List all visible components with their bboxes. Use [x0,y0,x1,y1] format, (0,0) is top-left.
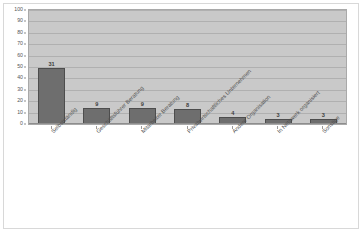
bar-value-label-5: 3 [277,112,280,118]
y-tick-label-20: 20 [17,99,23,104]
y-tick-mark-10 [24,112,26,113]
bar-value-label-0: 31 [48,61,54,67]
bar-0 [38,68,65,124]
y-tick-mark-50 [24,67,26,68]
y-tick-label-60: 60 [17,53,23,58]
y-tick-label-100: 100 [14,7,23,12]
bar-value-label-3: 8 [186,102,189,108]
y-tick-label-10: 10 [17,110,23,115]
y-tick-label-80: 80 [17,30,23,35]
y-axis-tick-labels: 0102030405060708090100 [0,9,26,125]
y-tick-label-70: 70 [17,42,23,47]
bar-value-label-6: 3 [322,112,325,118]
gridline-0 [29,124,346,125]
y-tick-label-40: 40 [17,76,23,81]
y-tick-label-90: 90 [17,19,23,24]
y-tick-mark-90 [24,21,26,22]
bar-chart-figure: 0102030405060708090100 31998433 Selbstst… [0,0,363,233]
bar-value-label-4: 4 [231,110,234,116]
y-tick-mark-60 [24,55,26,56]
y-tick-mark-40 [24,78,26,79]
y-tick-mark-20 [24,101,26,102]
y-tick-mark-0 [24,124,26,125]
y-tick-label-0: 0 [20,121,23,126]
y-tick-mark-80 [24,32,26,33]
y-tick-mark-30 [24,89,26,90]
x-axis-category-labels: SelbstständigGeschäftsführer BeratungMit… [28,126,347,222]
y-tick-mark-100 [24,10,26,11]
bar-value-label-1: 9 [95,101,98,107]
chart-title [0,0,363,2]
bar-value-label-2: 9 [141,101,144,107]
x-axis-baseline [29,123,346,124]
y-tick-label-50: 50 [17,64,23,69]
y-tick-label-30: 30 [17,87,23,92]
y-tick-mark-70 [24,44,26,45]
